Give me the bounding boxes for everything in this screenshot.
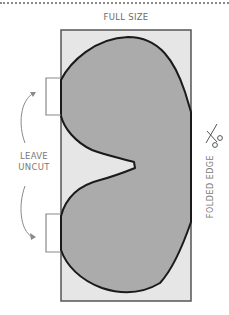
leave-uncut-line2: UNCUT	[14, 162, 54, 173]
bottom-curved-arrow-icon	[21, 186, 32, 237]
top-curved-arrow-icon	[21, 93, 34, 143]
scissors-icon	[206, 124, 222, 147]
leave-uncut-label: LEAVE UNCUT	[14, 151, 54, 173]
bottom-arrowhead-icon	[30, 233, 36, 240]
leave-uncut-line1: LEAVE	[14, 151, 54, 162]
bottom-uncut-bracket	[46, 214, 61, 252]
top-uncut-bracket	[46, 78, 61, 115]
folded-edge-label: FOLDED EDGE	[206, 147, 215, 227]
